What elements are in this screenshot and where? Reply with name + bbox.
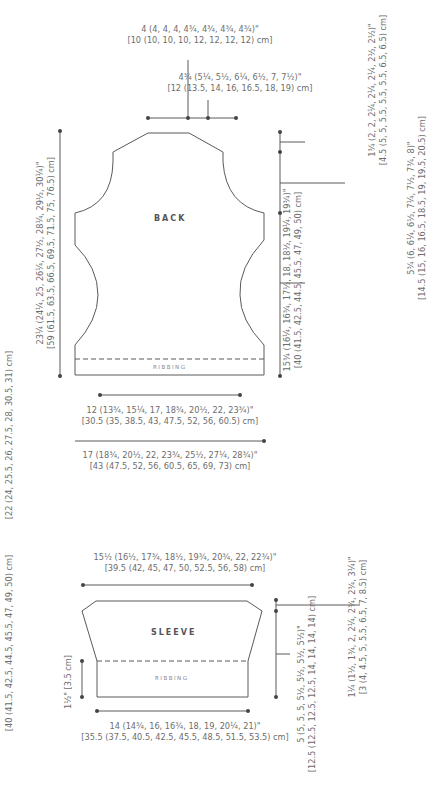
cap-depth-cm: [3 (4, 4.5, 5, 5.5, 6.5, 7, 8.5) cm] bbox=[358, 532, 369, 722]
sleeve-ribbing-label: RIBBING bbox=[155, 675, 189, 681]
back-title: BACK bbox=[154, 214, 186, 223]
cap-depth-in: 1¼ (1½, 1¾, 2, 2¼, 2¾, 2¾, 3¼)" bbox=[347, 532, 358, 722]
left-margin-upper: [22 (24, 25.5, 26, 27.5, 28, 30.5, 31) c… bbox=[4, 345, 15, 525]
waist-width-in: 12 (13¾, 15¼, 17, 18¾, 20½, 22, 23¾)" bbox=[70, 405, 270, 416]
sleeve-length-cm: [12.5 (12.5, 12.5, 12.5, 14, 14, 14, 14)… bbox=[307, 584, 318, 784]
sleeve-top-cm: [39.5 (42, 45, 47, 50, 52.5, 56, 58) cm] bbox=[70, 563, 300, 574]
shoulder-width-cm: [12 (13.5, 14, 16, 16.5, 18, 19) cm] bbox=[140, 83, 340, 94]
hip-width-cm: [43 (47.5, 52, 56, 60.5, 65, 69, 73) cm] bbox=[70, 461, 270, 472]
neck-width-in: 4 (4, 4, 4, 4¾, 4¾, 4¾, 4¾)" bbox=[100, 24, 300, 35]
shoulder-width-in: 4¾ (5¼, 5½, 6¼, 6½, 7, 7½)" bbox=[140, 72, 340, 83]
armhole-depth-cm: [14.5 (15, 16, 16.5, 18.5, 19, 19.5, 20.… bbox=[417, 98, 428, 318]
total-length-cm: [59 (61.5, 63.5, 66.5, 69.5, 71.5, 75, 7… bbox=[46, 128, 57, 378]
sleeve-outline bbox=[82, 601, 262, 697]
side-length-in: 15¾ (16¼, 16¾, 17½, 18, 18½, 19¼, 19¾)" bbox=[282, 180, 293, 380]
sleeve-length-in: 5 (5, 5, 5, 5½, 5½, 5½, 5½)" bbox=[296, 584, 307, 784]
neck-width-cm: [10 (10, 10, 10, 12, 12, 12, 12) cm] bbox=[100, 35, 300, 46]
total-length-in: 23¼ (24¼, 25, 26¼, 27½, 28¼, 29½, 30¼)" bbox=[35, 128, 46, 378]
waist-width-cm: [30.5 (35, 38.5, 43, 47.5, 52, 56, 60.5)… bbox=[70, 416, 270, 427]
sleeve-title: SLEEVE bbox=[151, 628, 196, 637]
cuff-width-cm: [35.5 (37.5, 40.5, 42.5, 45.5, 48.5, 51.… bbox=[60, 732, 310, 743]
hip-width-in: 17 (18¾, 20½, 22, 23¾, 25½, 27¼, 28¾)" bbox=[70, 450, 270, 461]
side-length-cm: [40 (41.5, 42.5, 44.5, 45.5, 47, 49, 50)… bbox=[293, 180, 304, 380]
shoulder-drop-cm: [4.5 (5, 5, 5.5, 5.5, 5.5, 6.5, 6.5) cm] bbox=[378, 10, 389, 170]
cuff-width-in: 14 (14¾, 16, 16¾, 18, 19, 20¼, 21)" bbox=[60, 721, 310, 732]
sleeve-ribbing-height: 1½" [3.5 cm] bbox=[63, 652, 74, 712]
sleeve-top-in: 15½ (16½, 17¾, 18½, 19¾, 20¾, 22, 22¾)" bbox=[70, 552, 300, 563]
back-outline bbox=[75, 133, 264, 375]
left-margin-lower: [40 (41.5, 42.5, 44.5, 45.5, 47, 49, 50)… bbox=[4, 538, 15, 748]
back-ribbing-label: RIBBING bbox=[153, 364, 187, 370]
shoulder-drop-in: 1¾ (2, 2, 2¼, 2¼, 2¼, 2½, 2½)" bbox=[367, 10, 378, 170]
armhole-depth-in: 5¾ (6, 6¼, 6½, 7¼, 7½, 7¾, 8)" bbox=[406, 98, 417, 318]
